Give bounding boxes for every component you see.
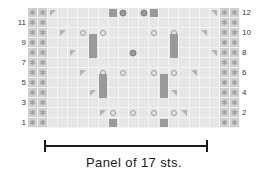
chart-cell-r2-c1: ✻ <box>28 108 38 118</box>
chart-cell-r10-c1: ✻ <box>28 28 38 38</box>
chart-cell-r3-c5 <box>68 98 78 108</box>
chart-cell-r6-c3 <box>48 68 58 78</box>
chart-cell-r9-c2: ✻ <box>38 38 48 48</box>
chart-cell-r3-c9 <box>109 98 119 108</box>
star-icon: ✻ <box>40 89 46 96</box>
chart-cell-r3-c17 <box>190 98 200 108</box>
chart-cell-r12-c6 <box>78 8 88 18</box>
chart-cell-r12-c12 <box>139 8 149 18</box>
chart-cell-r11-c10 <box>119 18 129 28</box>
triangle-right-icon <box>100 110 106 116</box>
chart-cell-r11-c19 <box>210 18 220 28</box>
chart-cell-r7-c5 <box>68 58 78 68</box>
chart-cell-r7-c8 <box>99 58 109 68</box>
chart-cell-r11-c17 <box>190 18 200 28</box>
chart-cell-r10-c17 <box>190 28 200 38</box>
chart-cell-r4-c3 <box>48 88 58 98</box>
chart-cell-r5-c2: ✻ <box>38 78 48 88</box>
star-icon: ✻ <box>40 29 46 36</box>
chart-cell-r8-c8 <box>99 48 109 58</box>
chart-cell-r8-c2: ✻ <box>38 48 48 58</box>
chart-cell-r4-c8 <box>99 88 109 98</box>
star-icon: ✻ <box>30 89 36 96</box>
chart-cell-r9-c8 <box>99 38 109 48</box>
chart-cell-r12-c18 <box>200 8 210 18</box>
chart-cell-r2-c19 <box>210 108 220 118</box>
chart-cell-r3-c12 <box>139 98 149 108</box>
chart-cell-r5-c11 <box>129 78 139 88</box>
star-icon: ✻ <box>30 99 36 106</box>
star-icon: ✻ <box>232 49 238 56</box>
bracket-tick-right <box>206 140 208 152</box>
chart-cell-r11-c15 <box>169 18 179 28</box>
chart-cell-r5-c21: ✻ <box>230 78 240 88</box>
chart-cell-r7-c13 <box>149 58 159 68</box>
chart-cell-r6-c19 <box>210 68 220 78</box>
chart-cell-r2-c15 <box>169 108 179 118</box>
chart-cell-r3-c2: ✻ <box>38 98 48 108</box>
chart-cell-r10-c13 <box>149 28 159 38</box>
chart-cell-r10-c4 <box>58 28 68 38</box>
filled-dot-icon <box>130 49 137 56</box>
chart-cell-r10-c3 <box>48 28 58 38</box>
chart-cell-r1-c9 <box>109 118 119 128</box>
chart-cell-r3-c11 <box>129 98 139 108</box>
filled-dot-icon <box>120 9 127 16</box>
chart-cell-r2-c5 <box>68 108 78 118</box>
star-icon: ✻ <box>232 109 238 116</box>
triangle-right-icon <box>60 30 66 36</box>
chart-cell-r3-c6 <box>78 98 88 108</box>
star-icon: ✻ <box>221 49 227 56</box>
chart-grid: ✻✻✻✻✻✻✻✻✻✻✻✻✻✻✻✻✻✻✻✻✻✻✻✻✻✻✻✻✻✻✻✻✻✻✻✻✻✻✻✻… <box>28 8 240 128</box>
filled-dot-icon <box>140 9 147 16</box>
star-icon: ✻ <box>40 109 46 116</box>
chart-cell-r8-c3 <box>48 48 58 58</box>
chart-cell-r6-c1: ✻ <box>28 68 38 78</box>
chart-cell-r6-c11 <box>129 68 139 78</box>
chart-cell-r5-c17 <box>190 78 200 88</box>
chart-cell-r5-c10 <box>119 78 129 88</box>
row-number-11: 11 <box>2 18 26 28</box>
chart-cell-r1-c6 <box>78 118 88 128</box>
chart-cell-r6-c9 <box>109 68 119 78</box>
star-icon: ✻ <box>40 39 46 46</box>
chart-cell-r5-c16 <box>179 78 189 88</box>
star-icon: ✻ <box>232 19 238 26</box>
chart-cell-r6-c12 <box>139 68 149 78</box>
chart-cell-r7-c12 <box>139 58 149 68</box>
chart-cell-r3-c20: ✻ <box>220 98 230 108</box>
chart-cell-r7-c10 <box>119 58 129 68</box>
chart-cell-r11-c21: ✻ <box>230 18 240 28</box>
chart-cell-r9-c20: ✻ <box>220 38 230 48</box>
chart-cell-r3-c13 <box>149 98 159 108</box>
chart-cell-r6-c5 <box>68 68 78 78</box>
chart-cell-r3-c7 <box>89 98 99 108</box>
chart-cell-r10-c9 <box>109 28 119 38</box>
chart-cell-r4-c17 <box>190 88 200 98</box>
chart-cell-r1-c5 <box>68 118 78 128</box>
chart-cell-r9-c10 <box>119 38 129 48</box>
chart-cell-r11-c7 <box>89 18 99 28</box>
chart-cell-r4-c11 <box>129 88 139 98</box>
star-icon: ✻ <box>30 109 36 116</box>
chart-cell-r6-c6 <box>78 68 88 78</box>
chart-cell-r4-c6 <box>78 88 88 98</box>
chart-cell-r7-c1: ✻ <box>28 58 38 68</box>
chart-cell-r4-c15 <box>169 88 179 98</box>
chart-cell-r12-c2: ✻ <box>38 8 48 18</box>
chart-cell-r7-c21: ✻ <box>230 58 240 68</box>
chart-cell-r1-c14 <box>159 118 169 128</box>
row-number-7: 7 <box>2 58 26 68</box>
chart-cell-r8-c6 <box>78 48 88 58</box>
chart-cell-r1-c17 <box>190 118 200 128</box>
chart-cell-r3-c8 <box>99 98 109 108</box>
star-icon: ✻ <box>40 9 46 16</box>
triangle-left-icon <box>211 50 217 56</box>
star-icon: ✻ <box>30 79 36 86</box>
chart-cell-r8-c4 <box>58 48 68 58</box>
chart-cell-r9-c12 <box>139 38 149 48</box>
filled-square-icon <box>109 119 117 127</box>
chart-cell-r5-c20: ✻ <box>220 78 230 88</box>
star-icon: ✻ <box>40 79 46 86</box>
open-circle-icon <box>100 30 106 36</box>
